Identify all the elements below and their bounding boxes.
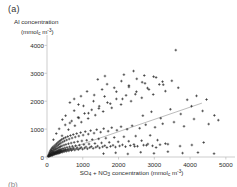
data-point <box>103 95 106 98</box>
data-point <box>61 134 64 137</box>
data-point <box>145 144 148 147</box>
data-point <box>68 138 71 141</box>
data-point <box>121 144 124 147</box>
data-point <box>80 121 83 124</box>
data-point <box>159 143 162 146</box>
data-point <box>115 90 118 93</box>
data-point <box>158 83 161 86</box>
data-point <box>197 151 200 154</box>
data-point <box>153 152 156 155</box>
data-point <box>52 138 55 141</box>
data-point <box>127 140 130 143</box>
data-point <box>127 153 130 156</box>
data-point <box>191 144 194 147</box>
data-point <box>130 100 133 103</box>
data-point <box>98 107 101 110</box>
data-point <box>138 127 141 130</box>
data-point <box>142 114 145 117</box>
data-point <box>140 139 143 142</box>
x-tick-label: 1000 <box>68 161 98 168</box>
data-point <box>102 152 105 155</box>
data-point <box>132 70 135 73</box>
data-point <box>94 114 97 117</box>
data-point <box>144 82 147 85</box>
data-point <box>78 144 81 147</box>
data-point <box>150 110 153 113</box>
data-point <box>144 123 147 126</box>
data-point <box>71 137 74 140</box>
data-point <box>140 97 143 100</box>
data-point <box>109 102 112 105</box>
data-point <box>81 140 84 143</box>
data-point <box>124 145 127 148</box>
data-point <box>149 134 152 137</box>
data-point <box>69 101 72 104</box>
data-point <box>110 126 113 129</box>
data-point <box>135 90 138 93</box>
data-point <box>136 145 139 148</box>
data-point <box>67 128 70 131</box>
data-point <box>92 100 95 103</box>
data-point <box>129 144 132 147</box>
data-point <box>87 133 90 136</box>
data-point <box>82 105 85 108</box>
data-point <box>73 109 76 112</box>
data-point <box>128 84 131 87</box>
data-point <box>98 105 101 108</box>
data-point <box>73 141 76 144</box>
data-point <box>107 130 110 133</box>
data-point <box>177 86 180 89</box>
data-point <box>72 133 75 136</box>
data-point <box>106 83 109 86</box>
data-point <box>154 126 157 129</box>
x-tick-label: 5000 <box>211 161 237 168</box>
data-point <box>134 93 137 96</box>
data-point <box>88 143 91 146</box>
data-point <box>169 108 172 111</box>
data-point <box>89 129 92 132</box>
data-point <box>86 147 89 150</box>
data-point <box>134 135 137 138</box>
data-point <box>118 145 121 148</box>
data-point <box>95 128 98 131</box>
data-point <box>109 145 112 148</box>
data-point <box>147 143 150 146</box>
x-tick-label: 2000 <box>104 161 134 168</box>
data-point <box>123 73 126 76</box>
data-point <box>69 134 72 137</box>
data-point <box>58 128 61 131</box>
data-point <box>66 135 69 138</box>
data-point <box>61 118 64 121</box>
data-point <box>213 152 216 155</box>
data-point <box>106 101 109 104</box>
data-point <box>114 146 117 149</box>
data-point <box>167 150 170 153</box>
data-point <box>102 127 105 130</box>
data-point <box>193 118 196 121</box>
data-point <box>76 140 79 143</box>
data-point <box>155 76 158 79</box>
data-point <box>201 110 204 113</box>
data-point <box>139 151 142 154</box>
data-point <box>121 98 124 101</box>
data-point <box>164 142 167 145</box>
data-point <box>217 119 220 122</box>
data-point <box>141 81 144 84</box>
data-point <box>120 125 123 128</box>
data-point <box>92 147 95 150</box>
data-point <box>171 80 174 83</box>
data-point <box>113 136 116 139</box>
x-tick-label: 4000 <box>175 161 205 168</box>
axis-lines <box>47 35 235 157</box>
data-point <box>105 137 108 140</box>
data-point <box>152 93 155 96</box>
data-point <box>195 95 198 98</box>
data-point <box>117 140 120 143</box>
data-point <box>213 114 216 117</box>
data-point <box>167 143 170 146</box>
data-point <box>113 86 116 89</box>
data-point <box>74 124 77 127</box>
data-point <box>112 144 115 147</box>
tick-marks <box>45 45 226 159</box>
data-point <box>146 87 149 90</box>
